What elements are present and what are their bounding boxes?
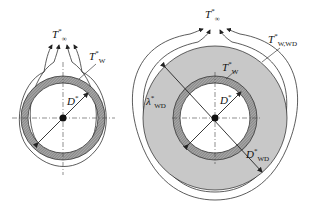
right-pipe-figure	[132, 29, 297, 200]
right-d-wd-label: D*WD	[246, 148, 269, 163]
right-t-inf-label: T*∞	[205, 8, 220, 23]
right-lambda-wd-label: λ*WD	[146, 95, 166, 110]
right-t-w-wd-label: T*W,WD	[268, 33, 297, 48]
right-center-dot	[212, 115, 219, 122]
left-t-inf-label: T*∞	[52, 28, 67, 43]
right-d-label: D*	[220, 94, 231, 106]
left-d-label: D*	[67, 95, 78, 107]
right-t-w-label: T*W	[222, 61, 238, 76]
left-t-w-label: T*W	[89, 50, 105, 65]
right-twwd-leader	[262, 48, 280, 62]
left-center-dot	[60, 115, 67, 122]
